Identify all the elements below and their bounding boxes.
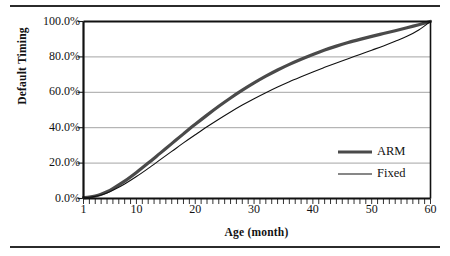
x-axis-title: Age (month) bbox=[83, 226, 430, 238]
x-tick-label: 60 bbox=[411, 202, 450, 217]
y-tick-label: 60.0% bbox=[22, 84, 80, 99]
x-tick-label: 20 bbox=[175, 202, 215, 217]
legend-label-arm: ARM bbox=[377, 144, 405, 159]
x-tick-label: 1 bbox=[64, 202, 104, 217]
x-tick-label: 10 bbox=[116, 202, 156, 217]
top-horizontal-rule bbox=[10, 5, 440, 7]
x-tick-label: 30 bbox=[234, 202, 274, 217]
legend-label-fixed: Fixed bbox=[377, 166, 405, 181]
y-tick-label: 100.0% bbox=[22, 14, 80, 29]
y-tick-label: 20.0% bbox=[22, 155, 80, 170]
y-tick-label: 80.0% bbox=[22, 49, 80, 64]
y-tick-label: 40.0% bbox=[22, 120, 80, 135]
x-tick-label: 50 bbox=[352, 202, 392, 217]
figure-container: Default Timing Age (month) 0.0%20.0%40.0… bbox=[0, 0, 450, 256]
x-tick-label: 40 bbox=[293, 202, 333, 217]
bottom-horizontal-rule bbox=[10, 246, 440, 248]
